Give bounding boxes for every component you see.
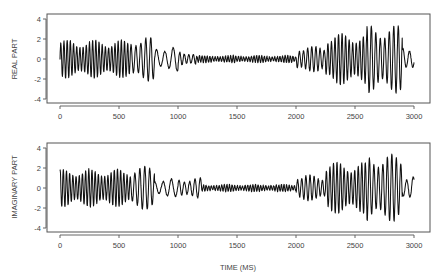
y-axis: -4-2024 bbox=[34, 144, 46, 233]
x-tick-label: 0 bbox=[58, 241, 62, 250]
real-part-panel: -4-2024 050010001500200025003000 REAL PA… bbox=[10, 14, 430, 121]
x-tick-label: 500 bbox=[113, 112, 126, 121]
x-axis: 050010001500200025003000 bbox=[58, 235, 422, 250]
x-tick-label: 1500 bbox=[229, 112, 246, 121]
y-tick-label: -4 bbox=[34, 224, 41, 233]
x-axis: 050010001500200025003000 bbox=[58, 106, 422, 121]
y-tick-label: 0 bbox=[37, 55, 41, 64]
y-tick-label: -2 bbox=[34, 204, 41, 213]
imaginary-part-trace bbox=[60, 154, 414, 221]
x-tick-label: 500 bbox=[113, 241, 126, 250]
y-tick-label: 4 bbox=[37, 144, 41, 153]
real-part-trace bbox=[60, 26, 414, 93]
x-tick-label: 2000 bbox=[288, 241, 305, 250]
x-tick-label: 1000 bbox=[170, 241, 187, 250]
x-tick-label: 1000 bbox=[170, 112, 187, 121]
y-tick-label: 2 bbox=[37, 164, 41, 173]
x-tick-label: 2500 bbox=[347, 241, 364, 250]
figure: -4-2024 050010001500200025003000 REAL PA… bbox=[0, 0, 443, 280]
imaginary-part-panel: -4-2024 050010001500200025003000 IMAGINA… bbox=[10, 143, 430, 250]
y-axis-title: IMAGINARY PART bbox=[10, 155, 19, 219]
x-tick-label: 3000 bbox=[406, 241, 423, 250]
x-tick-label: 1500 bbox=[229, 241, 246, 250]
x-tick-label: 0 bbox=[58, 112, 62, 121]
y-axis: -4-2024 bbox=[34, 15, 46, 104]
x-tick-label: 3000 bbox=[406, 112, 423, 121]
y-tick-label: -2 bbox=[34, 75, 41, 84]
y-tick-label: -4 bbox=[34, 95, 41, 104]
x-tick-label: 2500 bbox=[347, 112, 364, 121]
y-tick-label: 2 bbox=[37, 35, 41, 44]
y-tick-label: 0 bbox=[37, 184, 41, 193]
x-tick-label: 2000 bbox=[288, 112, 305, 121]
x-axis-title: TIME (MS) bbox=[220, 263, 257, 272]
y-tick-label: 4 bbox=[37, 15, 41, 24]
y-axis-title: REAL PART bbox=[10, 38, 19, 79]
